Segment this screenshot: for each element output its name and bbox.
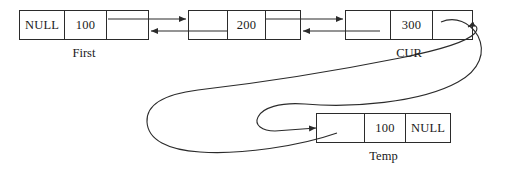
node-second-cell-prev: [189, 11, 227, 39]
node-first-cell-next: [106, 11, 148, 39]
node-cur-label: CUR: [345, 47, 473, 60]
node-first-cell-prev: NULL: [20, 11, 64, 39]
node-second-cell-data: 200: [227, 11, 265, 39]
node-first-label: First: [19, 47, 149, 60]
linked-list-diagram: NULL 100 First 200 300 CUR 100 NULL Temp: [0, 0, 530, 172]
node-temp-label: Temp: [316, 150, 451, 163]
node-cur-cell-data: 300: [390, 11, 432, 39]
node-temp: 100 NULL: [316, 113, 451, 143]
node-second-cell-next: [265, 11, 300, 39]
node-first: NULL 100: [19, 10, 149, 40]
node-temp-cell-prev: [317, 114, 364, 142]
node-temp-cell-data: 100: [364, 114, 405, 142]
node-cur-cell-next: [432, 11, 472, 39]
node-cur-cell-prev: [346, 11, 390, 39]
node-cur: 300: [345, 10, 473, 40]
node-temp-cell-next: NULL: [405, 114, 450, 142]
node-first-cell-data: 100: [64, 11, 106, 39]
node-second: 200: [188, 10, 301, 40]
